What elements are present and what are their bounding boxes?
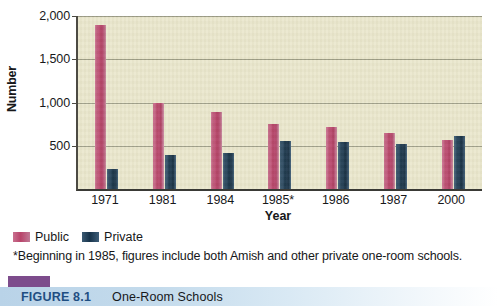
x-tick-label: 1986 [322,193,349,207]
bar-private-2000 [454,136,465,189]
y-axis-title: Number [5,59,19,119]
legend: Public Private [13,230,143,244]
legend-item-public: Public [13,230,69,244]
bar-group [309,16,367,189]
bar-public-1986 [326,127,337,189]
bar-private-1984 [223,153,234,189]
bar-group [136,16,194,189]
bar-private-1971 [107,169,118,189]
bar-private-1987 [396,144,407,189]
bar-public-2000 [442,140,453,189]
y-tick-mark [72,59,78,60]
y-tick-label: 1,000 [39,96,70,110]
footnote: *Beginning in 1985, figures include both… [13,249,462,263]
bar-public-1981 [153,103,164,189]
y-tick-mark [72,103,78,104]
bar-private-1986 [338,142,349,189]
x-tick-label: 1971 [91,193,118,207]
y-tick-label: 2,000 [39,9,70,23]
x-tick-label: 2000 [437,193,464,207]
legend-swatch-private-icon [82,232,99,242]
figure-container: Number 5001,0001,5002,000 19711981198419… [0,0,498,306]
caption-title: One-Room Schools [112,290,223,304]
legend-swatch-public-icon [13,232,30,242]
bar-public-1987 [384,133,395,189]
y-tick-label: 500 [49,139,70,153]
bar-group [251,16,309,189]
x-tick-label: 1987 [380,193,407,207]
x-axis-title: Year [76,209,480,223]
legend-item-private: Private [82,230,143,244]
y-tick-mark [72,146,78,147]
y-tick-mark [72,16,78,17]
bar-private-1981 [165,155,176,189]
y-tick-label: 1,500 [39,52,70,66]
caption-figure-number: FIGURE 8.1 [21,290,91,304]
plot-area [76,16,482,191]
legend-label-private: Private [104,230,143,244]
bar-public-1985 [268,124,279,189]
x-tick-label: 1981 [149,193,176,207]
legend-label-public: Public [35,230,69,244]
caption-bar: FIGURE 8.1 One-Room Schools [0,287,498,306]
y-axis-tick-labels: 5001,0001,5002,000 [18,0,74,226]
bar-group [424,16,482,189]
bar-private-1985 [280,141,291,189]
bar-group [78,16,136,189]
plot-inner [78,16,482,189]
bar-public-1984 [211,112,222,189]
bar-group [367,16,425,189]
caption-text: FIGURE 8.1 One-Room Schools [0,287,223,306]
x-tick-label: 1984 [207,193,234,207]
bar-group [193,16,251,189]
bar-public-1971 [95,25,106,189]
x-tick-label: 1985* [262,193,294,207]
chart: Number 5001,0001,5002,000 19711981198419… [0,0,498,226]
